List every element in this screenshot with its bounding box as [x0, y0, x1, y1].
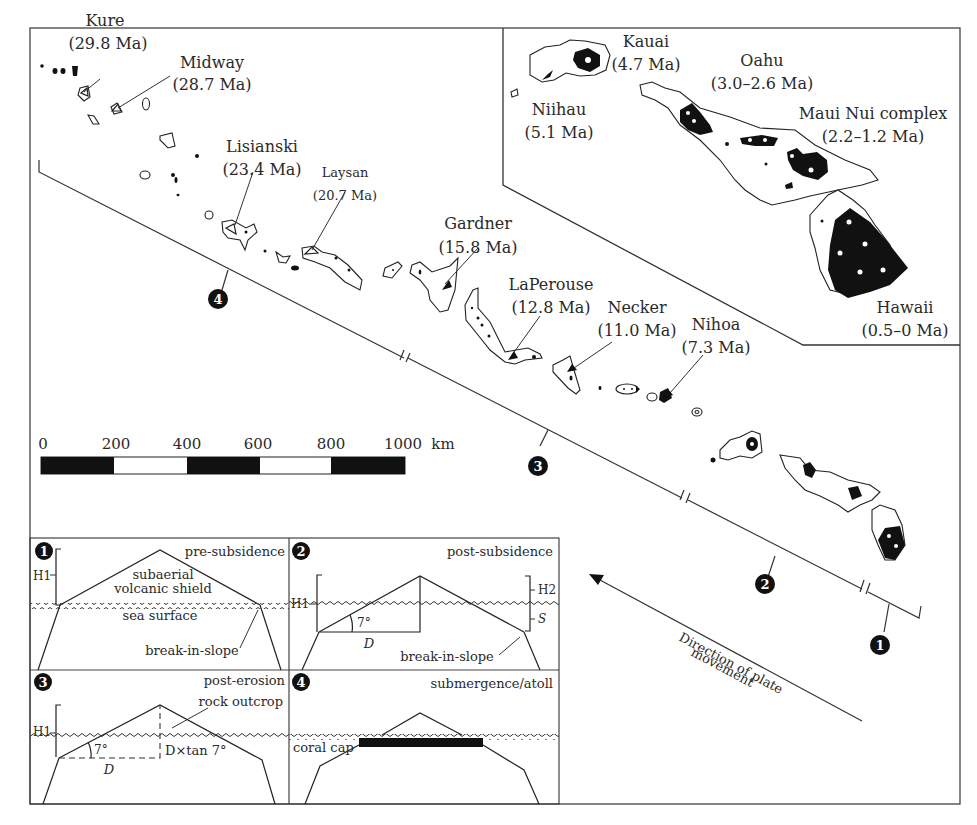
svg-text:D×tan 7°: D×tan 7° [165, 743, 227, 758]
svg-text:sea surface: sea surface [122, 608, 197, 623]
svg-text:coral cap: coral cap [293, 740, 354, 755]
svg-text:2: 2 [296, 544, 305, 559]
svg-text:post-erosion: post-erosion [204, 673, 286, 688]
svg-text:200: 200 [102, 435, 131, 453]
label-hawaii-age: (0.5–0 Ma) [861, 321, 948, 340]
label-nihoa: Nihoa [692, 315, 741, 334]
label-nihoa-age: (7.3 Ma) [682, 338, 751, 357]
label-gardner: Gardner [444, 214, 512, 233]
scale-bar: 0 200 400 600 800 1000 km [38, 435, 454, 474]
svg-text:km: km [431, 435, 454, 453]
svg-text:post-subsidence: post-subsidence [447, 544, 553, 559]
svg-text:1: 1 [39, 544, 48, 559]
panel-2-post-subsidence: 2 post-subsidence H1 H2 S 7° D break-in-… [289, 542, 559, 670]
label-lisianski-age: (23.4 Ma) [222, 160, 301, 179]
panel-3-post-erosion: 3 post-erosion H1 rock outcrop 7° D D×ta… [30, 673, 289, 804]
figure-canvas: Kure (29.8 Ma) Midway (28.7 Ma) Lisiansk… [0, 0, 977, 825]
label-laysan-age: (20.7 Ma) [313, 188, 377, 203]
svg-text:D: D [103, 762, 115, 777]
stage-marker-2: 2 [755, 574, 775, 594]
label-necker: Necker [607, 298, 667, 317]
label-gardner-age: (15.8 Ma) [438, 238, 517, 257]
label-niihau-age: (5.1 Ma) [525, 123, 594, 142]
pointer-lines [84, 76, 703, 393]
label-lisianski: Lisianski [226, 137, 298, 156]
label-kauai-age: (4.7 Ma) [612, 55, 681, 74]
svg-text:H2: H2 [538, 583, 556, 597]
label-maui-nui: Maui Nui complex [799, 104, 948, 123]
svg-text:3: 3 [38, 675, 47, 690]
northwestern-islands [40, 64, 702, 416]
svg-text:4: 4 [213, 292, 222, 307]
stage-marker-4: 4 [208, 289, 228, 309]
svg-text:600: 600 [244, 435, 273, 453]
svg-text:pre-subsidence: pre-subsidence [185, 544, 285, 559]
svg-text:7°: 7° [94, 743, 108, 757]
svg-text:subaerial: subaerial [132, 567, 193, 582]
label-midway: Midway [180, 53, 244, 72]
panel-1-pre-subsidence: 1 pre-subsidence H1 subaerial volcanic s… [30, 542, 289, 670]
svg-text:volcanic shield: volcanic shield [113, 581, 212, 596]
svg-text:7°: 7° [357, 616, 371, 630]
label-midway-age: (28.7 Ma) [172, 75, 251, 94]
svg-text:800: 800 [317, 435, 346, 453]
svg-text:break-in-slope: break-in-slope [400, 649, 494, 664]
svg-text:2: 2 [760, 577, 769, 592]
svg-text:S: S [538, 612, 546, 626]
svg-text:0: 0 [38, 435, 48, 453]
svg-text:D: D [363, 636, 375, 651]
label-kauai: Kauai [623, 32, 669, 51]
label-laperouse-age: (12.8 Ma) [511, 298, 590, 317]
svg-text:rock outcrop: rock outcrop [199, 694, 283, 709]
label-necker-age: (11.0 Ma) [597, 321, 676, 340]
label-hawaii: Hawaii [877, 298, 934, 317]
inset-islands [511, 40, 908, 298]
label-oahu-age: (3.0–2.6 Ma) [711, 74, 813, 93]
svg-text:submergence/atoll: submergence/atoll [431, 676, 553, 691]
label-laysan: Laysan [322, 165, 369, 180]
svg-text:4: 4 [296, 675, 305, 690]
svg-text:H1: H1 [291, 597, 309, 611]
label-oahu: Oahu [740, 51, 783, 70]
stage-marker-1: 1 [870, 635, 890, 655]
svg-text:break-in-slope: break-in-slope [145, 643, 239, 658]
label-kure: Kure [85, 11, 124, 30]
svg-text:400: 400 [173, 435, 202, 453]
svg-text:3: 3 [533, 459, 542, 474]
svg-text:1: 1 [875, 638, 884, 653]
plate-direction-arrow: Direction of plate movement [589, 574, 862, 721]
stage-marker-3: 3 [528, 456, 548, 476]
label-laperouse: LaPerouse [509, 275, 594, 294]
label-kure-age: (29.8 Ma) [68, 34, 147, 53]
label-niihau: Niihau [532, 100, 586, 119]
svg-text:H1: H1 [33, 725, 51, 739]
svg-text:1000: 1000 [384, 435, 422, 453]
panel-4-submergence-atoll: 4 submergence/atoll coral cap [289, 673, 559, 804]
svg-text:H1: H1 [33, 569, 51, 583]
lower-main-islands [711, 431, 906, 560]
label-maui-nui-age: (2.2–1.2 Ma) [822, 127, 924, 146]
